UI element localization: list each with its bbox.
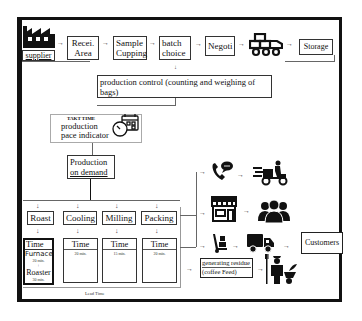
connector xyxy=(334,55,335,62)
roaster-label: Roaster xyxy=(25,268,52,277)
connector xyxy=(92,143,93,155)
production-control-box: production control (counting and weighin… xyxy=(97,75,272,98)
hand-truck-boxes-icon xyxy=(211,233,229,257)
arrow-down: ↓ xyxy=(174,64,177,71)
arrow: → xyxy=(286,41,293,48)
arrow-down: ↓ xyxy=(115,228,119,235)
time-card-milling: Time 15 min. xyxy=(102,238,137,283)
arrow: → xyxy=(186,266,193,273)
arrow: → xyxy=(283,243,290,250)
time-label: Time xyxy=(25,240,52,250)
time-label: Time xyxy=(103,239,136,250)
connector xyxy=(23,200,180,201)
arrow-down: ↓ xyxy=(155,228,159,235)
connector xyxy=(175,98,176,105)
arrow-down: ↓ xyxy=(36,228,40,235)
receiving-label-1: Recei. xyxy=(70,38,96,48)
arrow: → xyxy=(57,40,64,47)
sample-cupping-box: Sample Cupping xyxy=(113,36,147,60)
pod-label-1: Production xyxy=(70,157,112,167)
cupping-label-2: Cupping xyxy=(116,48,144,58)
cooling-time: 20 min. xyxy=(64,251,97,256)
cupping-label-1: Sample xyxy=(116,38,144,48)
arrow: → xyxy=(199,243,206,250)
time-card-packing: Time 20 min. xyxy=(142,238,177,283)
connector xyxy=(180,215,197,216)
customers-box: Customers xyxy=(301,232,343,254)
time-card-cooling: Time 20 min. xyxy=(63,238,98,283)
roaster-time: 30 min. xyxy=(25,277,52,282)
residue-box: generating residue (coffee Feed) xyxy=(200,258,253,278)
production-on-demand-box: Production on demand xyxy=(67,155,115,179)
arrow: → xyxy=(243,208,250,215)
lead-time-label: Lead Time xyxy=(85,291,104,296)
stopwatch-calendar-icon xyxy=(110,114,140,142)
store-icon xyxy=(210,195,238,227)
residue-label-1: generating residue xyxy=(202,259,251,268)
arrow: → xyxy=(199,210,206,217)
arrow: → xyxy=(102,40,109,47)
delivery-truck-icon xyxy=(249,33,283,61)
stage-packing: Packing xyxy=(141,211,177,225)
supplier-label: supplier xyxy=(22,50,55,61)
furnace-label: Furnace xyxy=(25,250,52,258)
lead-time-bracket xyxy=(23,287,180,288)
storage-underline xyxy=(285,61,335,62)
connector xyxy=(180,247,196,248)
pod-label-2: on demand xyxy=(70,167,112,177)
arrow: → xyxy=(232,243,239,250)
arrow-down: ↓ xyxy=(36,203,40,210)
receiving-area-box: Recei. Area xyxy=(67,36,99,60)
connector xyxy=(90,179,91,201)
arrow: → xyxy=(238,41,245,48)
receiving-label-2: Area xyxy=(70,48,96,58)
packing-time: 20 min. xyxy=(143,251,176,256)
connector xyxy=(97,105,176,106)
time-label: Time xyxy=(64,239,97,250)
farmer-wheelbarrow-icon xyxy=(265,252,299,290)
customers-group-icon xyxy=(258,199,290,227)
arrow: → xyxy=(149,40,156,47)
arrow: → xyxy=(237,172,244,179)
connector xyxy=(196,172,197,247)
arrow-down: ↓ xyxy=(76,228,80,235)
batch-choice-box: batch choice xyxy=(159,36,191,60)
arrow-down: ↓ xyxy=(115,203,119,210)
arrow-down: ↓ xyxy=(76,203,80,210)
milling-time: 15 min. xyxy=(103,251,136,256)
time-card-roast: Time Furnace 20 min. + Roaster 30 min. xyxy=(23,238,54,285)
batch-label-1: batch xyxy=(162,38,188,48)
arrow: → xyxy=(257,266,264,273)
phone-order-icon xyxy=(210,160,234,186)
stage-cooling: Cooling xyxy=(63,211,97,225)
delivery-scooter-icon xyxy=(253,160,289,190)
arrow: → xyxy=(199,169,206,176)
residue-label-2: (coffee Feed) xyxy=(202,268,251,276)
arrow: → xyxy=(195,41,202,48)
time-label: Time xyxy=(143,239,176,250)
arrow-down: ↓ xyxy=(155,203,159,210)
negotiation-box: Negoti xyxy=(205,36,235,56)
stage-roast: Roast xyxy=(27,211,54,225)
batch-label-2: choice xyxy=(162,48,188,58)
supplier-underline xyxy=(22,61,90,62)
storage-box: Storage xyxy=(299,39,333,55)
stage-milling: Milling xyxy=(102,211,136,225)
